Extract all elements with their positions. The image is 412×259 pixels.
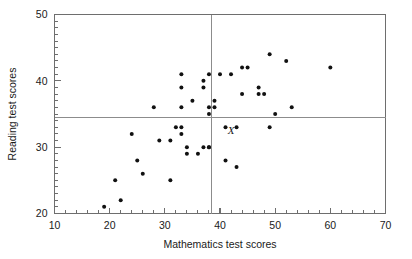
x-axis-tick-label: 70 [380,219,392,231]
data-point [174,125,178,129]
x-axis-tick-label: 10 [49,219,61,231]
y-axis-tick-label: 20 [36,207,48,219]
y-axis-tick-label: 40 [36,75,48,87]
x-axis-title: Mathematics test scores [163,238,276,250]
data-point [179,85,183,89]
data-point [218,72,222,76]
data-point [201,79,205,83]
data-point [235,165,239,169]
x-axis-tick-label: 40 [214,219,226,231]
data-point [185,152,189,156]
data-point [224,158,228,162]
data-point [179,72,183,76]
data-point [212,105,216,109]
plot-canvas: 1020304050607020304050XMathematics test … [0,0,412,259]
annotation-marker-x: X [227,124,236,136]
data-point [190,99,194,103]
x-axis-tick-label: 50 [269,219,281,231]
data-point [207,72,211,76]
data-point [196,152,200,156]
x-axis-tick-label: 30 [159,219,171,231]
data-point [179,105,183,109]
data-point [113,178,117,182]
data-point [141,172,145,176]
data-point [257,85,261,89]
data-point [262,92,266,96]
x-axis-tick-label: 20 [104,219,116,231]
x-axis-tick-label: 60 [324,219,336,231]
data-point [328,66,332,70]
data-point [185,145,189,149]
data-point [119,198,123,202]
y-axis-tick-label: 50 [36,8,48,20]
data-point [212,99,216,103]
data-point [135,158,139,162]
data-point [268,125,272,129]
data-point [168,139,172,143]
data-point [240,92,244,96]
data-point [268,52,272,56]
data-point [207,145,211,149]
data-point [201,85,205,89]
data-point [207,112,211,116]
data-point [284,59,288,63]
data-point [130,132,134,136]
data-point [235,125,239,129]
y-axis-title: Reading test scores [6,68,18,161]
data-point [240,66,244,70]
data-point [168,178,172,182]
data-point [179,125,183,129]
data-point [257,92,261,96]
data-point [102,205,106,209]
data-point [290,105,294,109]
data-point [179,132,183,136]
data-point [152,105,156,109]
data-point [207,105,211,109]
data-point [229,72,233,76]
y-axis-tick-label: 30 [36,141,48,153]
plot-frame [55,15,386,214]
data-point [201,145,205,149]
data-point [157,139,161,143]
data-point [246,66,250,70]
scatter-plot-figure: 1020304050607020304050XMathematics test … [0,0,412,259]
data-point [273,112,277,116]
